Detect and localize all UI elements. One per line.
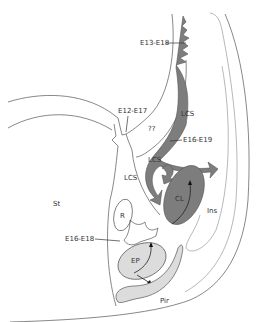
label-e12-e17: E12-E17	[118, 107, 147, 115]
medial-wall-curve	[126, 14, 173, 134]
label-lcs-left: LCS	[124, 174, 138, 182]
label-r: R	[120, 212, 125, 220]
inner-cortex-contour	[185, 13, 237, 292]
label-cl: CL	[175, 195, 184, 203]
label-ep: EP	[131, 257, 140, 265]
label-lcs-middle: LCS	[148, 156, 162, 164]
label-e13-e18: E13-E18	[140, 39, 169, 47]
label-unknown: ??	[148, 125, 156, 133]
label-ins: Ins	[207, 207, 218, 215]
brain-migration-diagram: E13-E18 E12-E17 ?? LCS E16-E19 LCS LCS S…	[0, 0, 258, 322]
label-lcs-upper: LCS	[181, 110, 195, 118]
lcs-column-left	[108, 124, 118, 306]
label-st: St	[53, 200, 60, 208]
leader-e12-e17	[126, 116, 128, 132]
label-pir: Pir	[160, 297, 169, 305]
label-e16-e19: E16-E19	[183, 136, 212, 144]
upper-band-bottom	[8, 115, 112, 130]
ins-region	[186, 66, 228, 251]
label-e16-e18: E16-E18	[65, 235, 94, 243]
